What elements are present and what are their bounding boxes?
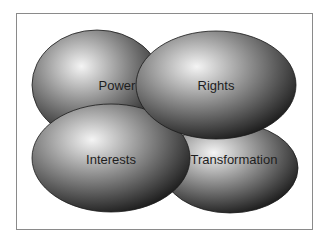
ellipse-label-transformation: Transformation: [191, 152, 278, 167]
ellipse-rights: Rights: [136, 31, 296, 139]
overlapping-ellipses-diagram: PowerTransformationInterestsRights: [0, 0, 327, 239]
ellipses-layer: PowerTransformationInterestsRights: [32, 30, 298, 213]
diagram-canvas: PowerTransformationInterestsRights: [0, 0, 327, 239]
ellipse-label-power: Power: [99, 78, 137, 93]
ellipse-label-interests: Interests: [86, 152, 136, 167]
ellipse-label-rights: Rights: [198, 78, 235, 93]
